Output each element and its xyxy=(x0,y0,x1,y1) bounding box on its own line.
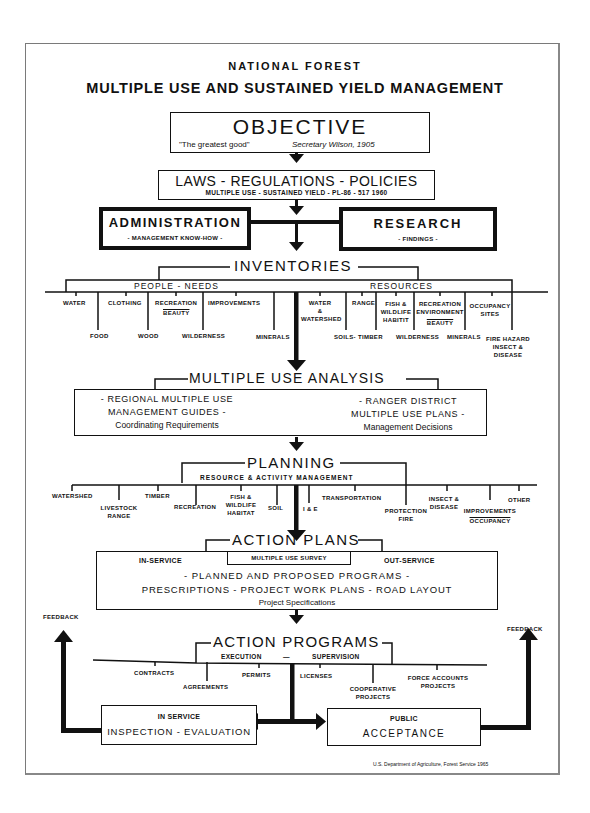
inventories-title: INVENTORIES xyxy=(234,258,352,273)
action-plans-line2: PRESCRIPTIONS - PROJECT WORK PLANS - ROA… xyxy=(96,585,498,595)
inv-food: FOOD xyxy=(90,333,109,339)
prog-licenses: LICENSES xyxy=(300,673,332,679)
planning-subtitle: RESOURCE & ACTIVITY MANAGEMENT xyxy=(200,475,354,482)
out-service-label: OUT-SERVICE xyxy=(384,557,435,564)
res-wilderness: WILDERNESS xyxy=(396,334,439,340)
in-service-label: IN-SERVICE xyxy=(139,557,182,564)
res-occupancy: OCCUPANCY xyxy=(466,303,514,309)
action-plans-line1: - PLANNED AND PROPOSED PROGRAMS - xyxy=(96,571,498,581)
plan-ie: I & E xyxy=(303,506,318,512)
analysis-left-1: - REGIONAL MULTIPLE USE xyxy=(82,395,252,404)
feedback-right-label: FEEDBACK xyxy=(507,626,543,632)
plan-fish: FISH & xyxy=(222,494,260,500)
main-title: MULTIPLE USE AND SUSTAINED YIELD MANAGEM… xyxy=(0,81,590,96)
plan-timber: TIMBER xyxy=(145,493,170,499)
inspection-line1: IN SERVICE xyxy=(102,713,256,720)
inv-recreation: RECREATION xyxy=(155,300,197,306)
execution-dash: — xyxy=(283,654,290,661)
prog-permits: PERMITS xyxy=(242,672,271,678)
analysis-left-3: Coordinating Requirements xyxy=(82,421,252,430)
administration-box: ADMINISTRATION - MANAGEMENT KNOW-HOW - xyxy=(99,207,251,250)
acceptance-line2: ACCEPTANCE xyxy=(328,729,480,739)
res-minerals: MINERALS xyxy=(447,334,481,340)
objective-box: OBJECTIVE "The greatest good" Secretary … xyxy=(170,112,430,153)
action-programs-title: ACTION PROGRAMS xyxy=(213,634,379,649)
res-insect: INSECT & xyxy=(483,344,533,350)
administration-subtitle: - MANAGEMENT KNOW-HOW - xyxy=(103,235,247,241)
plan-livestock: LIVESTOCK xyxy=(99,505,139,511)
plan-protection: PROTECTION xyxy=(383,508,429,514)
inv-minerals: MINERALS xyxy=(256,334,290,340)
res-sites: SITES xyxy=(466,311,514,317)
inspection-box: IN SERVICE INSPECTION - EVALUATION xyxy=(101,705,257,745)
res-range: RANGE xyxy=(352,300,375,306)
supertitle: NATIONAL FOREST xyxy=(0,61,590,72)
analysis-right-2: MULTIPLE USE PLANS - xyxy=(338,410,478,419)
analysis-right-1: - RANGER DISTRICT xyxy=(338,397,478,406)
plan-occupancy: OCCUPANCY xyxy=(463,518,517,524)
plan-habitat: HABITAT xyxy=(222,510,260,516)
research-subtitle: - FINDINGS - xyxy=(343,236,493,242)
prog-agreements: AGREEMENTS xyxy=(183,684,228,690)
inv-improvements: IMPROVEMENTS xyxy=(208,300,260,306)
res-fire-hazard: FIRE HAZARD xyxy=(483,336,533,342)
res-soils: SOILS- xyxy=(334,334,356,340)
plan-recreation: RECREATION xyxy=(174,504,216,510)
objective-quote: "The greatest good" xyxy=(179,141,250,149)
prog-force-projects: PROJECTS xyxy=(400,683,476,689)
res-habitit: HABITIT xyxy=(378,317,414,323)
res-wildlife: WILDLIFE xyxy=(378,309,414,315)
res-watershed: WATERSHED xyxy=(301,316,339,322)
action-plans-line3: Project Specifications xyxy=(96,599,498,607)
plan-insect: INSECT & xyxy=(426,496,462,502)
res-disease: DISEASE xyxy=(483,352,533,358)
res-timber: TIMBER xyxy=(358,334,383,340)
inv-wilderness: WILDERNESS xyxy=(182,333,225,339)
analysis-title: MULTIPLE USE ANALYSIS xyxy=(189,371,385,385)
prog-contracts: CONTRACTS xyxy=(134,670,174,676)
res-fish: FISH & xyxy=(378,301,414,307)
prog-force-accounts: FORCE ACCOUNTS xyxy=(400,675,476,681)
laws-title: LAWS - REGULATIONS - POLICIES xyxy=(159,174,434,188)
analysis-right-3: Management Decisions xyxy=(338,423,478,432)
plan-range: RANGE xyxy=(99,513,139,519)
research-title: RESEARCH xyxy=(343,217,493,230)
res-recreation: RECREATION xyxy=(416,301,464,307)
research-box: RESEARCH - FINDINGS - xyxy=(339,207,497,251)
plan-watershed: WATERSHED xyxy=(52,493,93,499)
action-plans-title: ACTION PLANS xyxy=(232,532,360,547)
people-needs-label: PEOPLE - NEEDS xyxy=(134,282,219,291)
inv-wood: WOOD xyxy=(138,333,159,339)
plan-transportation: TRANSPORTATION xyxy=(322,495,381,501)
acceptance-box: PUBLIC ACCEPTANCE xyxy=(327,708,481,746)
plan-other: OTHER xyxy=(508,497,531,503)
resources-label: RESOURCES xyxy=(370,282,433,291)
plan-soil: SOIL xyxy=(268,505,283,511)
feedback-left-label: FEEDBACK xyxy=(43,614,79,620)
inv-beauty: BEAUTY xyxy=(163,310,189,316)
inv-clothing: CLOTHING xyxy=(108,300,142,306)
survey-box: MULTIPLE USE SURVEY xyxy=(227,551,351,565)
inv-water: WATER xyxy=(63,300,86,306)
inspection-line2: INSPECTION - EVALUATION xyxy=(102,727,256,737)
survey-label: MULTIPLE USE SURVEY xyxy=(228,555,350,561)
planning-title: PLANNING xyxy=(247,455,336,470)
prog-cooperative: COOPERATIVE xyxy=(343,686,403,692)
prog-cooperative-projects: PROJECTS xyxy=(343,694,403,700)
res-beauty: BEAUTY xyxy=(416,320,464,326)
plan-disease: DISEASE xyxy=(426,504,462,510)
supervision-label: SUPERVISION xyxy=(312,654,360,661)
analysis-left-2: MANAGEMENT GUIDES - xyxy=(82,408,252,417)
footer-credit: U.S. Department of Agriculture, Forest S… xyxy=(373,762,488,767)
administration-title: ADMINISTRATION xyxy=(103,216,247,229)
laws-subtitle: MULTIPLE USE - SUSTAINED YIELD - PL-86 -… xyxy=(159,190,434,197)
plan-wildlife: WILDLIFE xyxy=(222,502,260,508)
laws-box: LAWS - REGULATIONS - POLICIES MULTIPLE U… xyxy=(158,170,435,200)
plan-fire: FIRE xyxy=(383,516,429,522)
objective-attribution: Secretary Wilson, 1905 xyxy=(292,141,375,149)
execution-label: EXECUTION xyxy=(221,654,262,661)
objective-title: OBJECTIVE xyxy=(171,116,429,137)
res-environment: ENVIRONMENT xyxy=(416,309,464,315)
plan-improvements: IMPROVEMENTS xyxy=(463,508,517,514)
res-and: & xyxy=(306,308,334,314)
